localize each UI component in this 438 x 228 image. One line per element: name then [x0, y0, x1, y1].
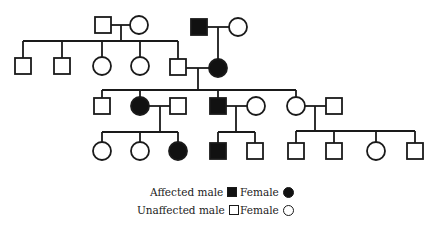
unaffected-female-circle-icon	[367, 142, 385, 160]
affected-female-circle-icon	[209, 59, 227, 77]
unaffected-male-square-icon	[170, 59, 186, 75]
affected-female-circle-icon	[131, 97, 149, 115]
individuals	[15, 16, 423, 160]
filled-circle-icon	[283, 187, 294, 198]
unaffected-female-circle-icon	[93, 142, 111, 160]
affected-female-circle-icon	[169, 142, 187, 160]
legend-label-unaffected-male: Unaffected male	[137, 204, 225, 216]
legend-label-female-affected: Female	[240, 186, 279, 198]
filled-square-icon	[227, 187, 237, 197]
unaffected-female-circle-icon	[93, 57, 111, 75]
unaffected-male-square-icon	[247, 143, 263, 159]
legend-label-female-unaffected: Female	[240, 204, 279, 216]
unaffected-male-square-icon	[326, 143, 342, 159]
unaffected-female-circle-icon	[287, 97, 305, 115]
unaffected-female-circle-icon	[130, 16, 148, 34]
unaffected-male-square-icon	[407, 143, 423, 159]
unaffected-female-circle-icon	[247, 97, 265, 115]
empty-square-icon	[229, 205, 239, 215]
empty-circle-icon	[283, 205, 294, 216]
legend-row-unaffected-female: Female	[240, 204, 294, 216]
unaffected-female-circle-icon	[131, 142, 149, 160]
unaffected-male-square-icon	[95, 17, 111, 33]
unaffected-male-square-icon	[288, 143, 304, 159]
unaffected-male-square-icon	[94, 98, 110, 114]
legend-label-affected-male: Affected male	[150, 186, 223, 198]
unaffected-female-circle-icon	[131, 57, 149, 75]
legend-row-unaffected: Unaffected male	[137, 204, 239, 216]
unaffected-male-square-icon	[54, 58, 70, 74]
unaffected-male-square-icon	[15, 58, 31, 74]
legend-row-affected-female: Female	[240, 186, 294, 198]
affected-male-square-icon	[210, 143, 226, 159]
relationship-lines	[23, 25, 415, 143]
unaffected-male-square-icon	[326, 98, 342, 114]
affected-male-square-icon	[191, 19, 207, 35]
unaffected-female-circle-icon	[229, 18, 247, 36]
affected-male-square-icon	[210, 98, 226, 114]
legend-row-affected: Affected male	[150, 186, 237, 198]
unaffected-male-square-icon	[170, 98, 186, 114]
